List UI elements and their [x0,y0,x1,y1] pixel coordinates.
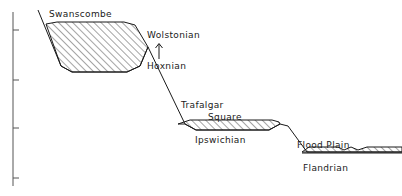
figure-canvas: Swanscombe Wolstonian Hoxnian Trafalgar … [0,0,402,196]
swanscombe-terrace-body [46,22,148,72]
label-flandrian: Flandrian [303,164,348,173]
label-swanscombe: Swanscombe [49,10,112,19]
label-trafalgar: Trafalgar [181,101,224,110]
label-square: Square [208,113,242,122]
label-flood-plain: Flood Plain [297,141,350,150]
label-wolstonian: Wolstonian [147,31,200,40]
vertical-scale-axis [13,12,19,186]
label-ipswichian: Ipswichian [195,136,246,145]
wolstonian-hoxnian-arrow [156,44,163,60]
label-hoxnian: Hoxnian [147,62,186,71]
